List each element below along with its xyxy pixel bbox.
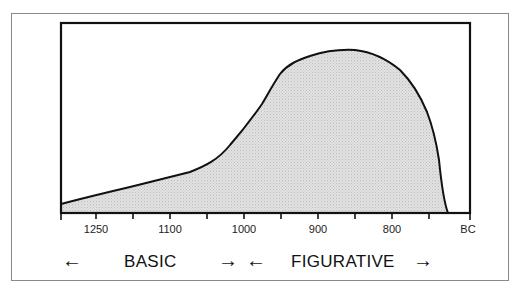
arrow-left-icon: ←	[246, 250, 266, 270]
x-axis-unit-label: BC	[460, 223, 475, 235]
x-tick-label: 800	[383, 223, 401, 235]
arrow-left-icon: ←	[62, 250, 82, 270]
region-label-basic: BASIC	[124, 252, 177, 272]
x-tick-label: 1000	[232, 223, 256, 235]
x-tick-label: 900	[309, 223, 327, 235]
region-label-figurative: FIGURATIVE	[291, 252, 395, 272]
arrow-right-icon: →	[218, 250, 238, 270]
x-tick-label: 1250	[84, 223, 108, 235]
area-fill	[61, 50, 448, 213]
x-tick-label: 1100	[158, 223, 182, 235]
arrow-right-icon: →	[413, 250, 433, 270]
